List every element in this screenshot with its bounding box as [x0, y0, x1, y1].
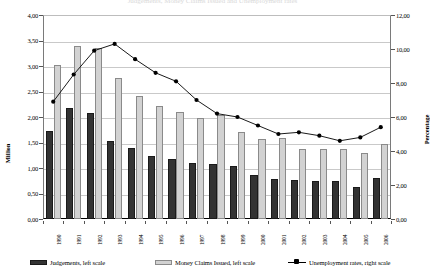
- y-axis-right-tick-label: 2,00: [396, 182, 426, 189]
- bar-group: [63, 15, 83, 219]
- chart-title: Judgements, Money Claims Issued and Unem…: [0, 0, 425, 6]
- legend-label-judgements: Judgements, left scale: [50, 259, 105, 266]
- x-axis-tick-label: 2003: [322, 235, 328, 245]
- legend-label-unemployment: Unemployment rates, right scale: [309, 259, 390, 266]
- bar-money-claims: [361, 153, 368, 219]
- bar-money-claims: [197, 118, 204, 219]
- y-axis-left-tick: [39, 168, 43, 169]
- y-axis-left-tick: [39, 92, 43, 93]
- y-axis-right-title: Percentage: [423, 108, 430, 152]
- y-axis-right-tick: [391, 83, 395, 84]
- x-axis-tick: [84, 221, 85, 224]
- x-axis-tick-label: 1992: [97, 235, 103, 245]
- y-axis-left-tick: [39, 143, 43, 144]
- bar-money-claims: [54, 65, 61, 219]
- bar-money-claims: [340, 149, 347, 219]
- x-axis-tick-label: 1999: [240, 235, 246, 245]
- y-axis-right-tick-label: 4,00: [396, 148, 426, 155]
- x-axis-tick-label: 1997: [199, 235, 205, 245]
- bar-money-claims: [136, 96, 143, 219]
- bar-group: [186, 15, 206, 219]
- bar-judgements: [332, 181, 339, 219]
- x-axis-tick-label: 1998: [220, 235, 226, 245]
- bar-money-claims: [115, 78, 122, 219]
- bar-judgements: [373, 178, 380, 219]
- legend-label-money-claims: Money Claims Issued, left scale: [175, 259, 255, 266]
- legend-item-unemployment: Unemployment rates, right scale: [288, 257, 390, 267]
- bar-series-layer: [43, 15, 391, 219]
- bar-money-claims: [320, 149, 327, 219]
- x-axis-tick-label: 2005: [363, 235, 369, 245]
- x-axis-tick: [104, 221, 105, 224]
- bar-judgements: [66, 108, 73, 219]
- bar-group: [43, 15, 63, 219]
- bar-judgements: [230, 166, 237, 219]
- x-axis-tick-label: 1991: [76, 235, 82, 245]
- x-axis-tick: [350, 221, 351, 224]
- x-axis-tick-label: 1993: [117, 235, 123, 245]
- x-axis-tick: [309, 221, 310, 224]
- bar-money-claims: [279, 138, 286, 219]
- x-axis-tick-label: 2004: [342, 235, 348, 245]
- bar-money-claims: [74, 46, 81, 219]
- bar-judgements: [312, 181, 319, 219]
- bar-money-claims: [238, 132, 245, 219]
- x-axis-tick-label: 2000: [260, 235, 266, 245]
- y-axis-left-tick-label: 3,50: [4, 37, 38, 44]
- legend-item-money-claims: Money Claims Issued, left scale: [155, 257, 255, 267]
- bar-group: [207, 15, 227, 219]
- bar-group: [125, 15, 145, 219]
- x-axis-tick-label: 2006: [383, 235, 389, 245]
- bar-judgements: [87, 113, 94, 219]
- bar-group: [309, 15, 329, 219]
- y-axis-right-tick: [391, 185, 395, 186]
- y-axis-left-tick: [39, 41, 43, 42]
- x-axis-tick: [289, 221, 290, 224]
- y-axis-right-tick: [391, 219, 395, 220]
- y-axis-left-tick: [39, 15, 43, 16]
- x-axis-tick: [207, 221, 208, 224]
- bar-judgements: [353, 187, 360, 219]
- x-axis-tick: [268, 221, 269, 224]
- y-axis-left-tick: [39, 219, 43, 220]
- bar-group: [350, 15, 370, 219]
- bar-judgements: [291, 180, 298, 219]
- bar-money-claims: [299, 149, 306, 219]
- y-axis-left-tick-label: 0,50: [4, 190, 38, 197]
- y-axis-left-tick: [39, 66, 43, 67]
- bar-judgements: [107, 141, 114, 219]
- x-axis-tick: [330, 221, 331, 224]
- bar-group: [84, 15, 104, 219]
- x-axis-tick: [248, 221, 249, 224]
- y-axis-right-tick-label: 12,00: [396, 12, 426, 19]
- bar-money-claims: [156, 106, 163, 219]
- x-axis-tick-label: 1996: [179, 235, 185, 245]
- y-axis-right-tick-label: 8,00: [396, 80, 426, 87]
- bar-group: [248, 15, 268, 219]
- x-axis-tick: [63, 221, 64, 224]
- y-axis-left-title: Million: [4, 134, 11, 174]
- bar-group: [166, 15, 186, 219]
- legend-swatch-money-claims-icon: [155, 260, 172, 265]
- x-axis-tick-label: 2001: [281, 235, 287, 245]
- x-axis-tick: [186, 221, 187, 224]
- y-axis-left-tick: [39, 117, 43, 118]
- y-axis-right-tick: [391, 117, 395, 118]
- x-axis-labels: 1990199119921993199419951996199719981999…: [43, 221, 391, 249]
- x-axis-tick: [145, 221, 146, 224]
- bar-judgements: [46, 131, 53, 219]
- bar-group: [371, 15, 391, 219]
- y-axis-left-tick: [39, 194, 43, 195]
- bar-money-claims: [381, 144, 388, 219]
- bar-judgements: [168, 159, 175, 219]
- y-axis-right-tick: [391, 49, 395, 50]
- y-axis-left-tick-label: 2,00: [4, 114, 38, 121]
- legend-item-judgements: Judgements, left scale: [30, 257, 105, 267]
- bar-judgements: [209, 164, 216, 219]
- x-axis-tick: [227, 221, 228, 224]
- y-axis-right-tick: [391, 15, 395, 16]
- bar-group: [268, 15, 288, 219]
- x-axis-tick-label: 1994: [138, 235, 144, 245]
- x-axis-tick-label: 1995: [158, 235, 164, 245]
